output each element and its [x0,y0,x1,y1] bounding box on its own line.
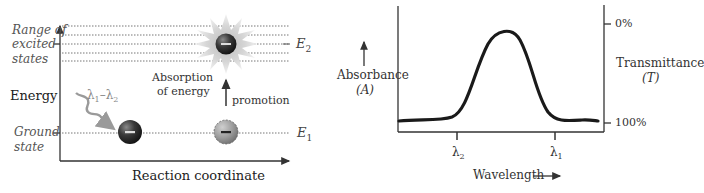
absorption-label-line-1: Absorption [152,72,213,83]
lambda-subscript: 2 [460,152,465,161]
e1-subscript: 1 [307,133,313,143]
promotion-label: promotion [232,95,290,106]
excited-electron-icon [216,34,237,55]
e1-symbol: E [297,125,307,140]
ground-label-line-2: state [14,141,44,153]
photon-wavelength-label: λ1–λ2 [87,89,118,104]
absorbance-curve [399,31,598,121]
wavelength-label: Wavelength [473,169,544,181]
transmittance-symbol: (T) [642,72,659,84]
tick-label-0-percent: 0% [615,18,632,29]
ground-label-line-1: Ground [14,126,60,138]
e2-label: E2 [296,37,311,54]
vacated-electron-icon [214,120,238,144]
e2-symbol: E [296,36,306,51]
absorbance-label: Absorbance [337,69,409,81]
excited-label-line-1: Range of [12,24,66,36]
tick-label-lambda-1: λ1 [550,146,563,161]
lambda-symbol: λ [87,88,95,102]
tick-label-100-percent: 100% [615,117,646,128]
absorbance-spectrum-chart [364,5,611,176]
lambda-symbol: λ [452,145,460,159]
lambda-subscript: 1 [558,152,563,161]
ground-electron-icon [118,120,142,144]
e2-subscript: 2 [306,44,312,54]
tick-label-lambda-2: λ2 [452,146,465,161]
energy-axis-label: Energy [10,89,57,102]
e1-label: E1 [297,126,312,143]
lambda-subscript: 2 [113,95,118,104]
absorbance-symbol: (A) [356,84,374,96]
lambda-symbol: λ [550,145,558,159]
excited-label-line-3: states [12,53,48,65]
absorption-label-line-2: of energy [157,86,210,97]
transmittance-label: Transmittance [616,57,704,69]
reaction-coordinate-label: Reaction coordinate [132,169,265,182]
excited-label-line-2: excited [12,38,56,50]
